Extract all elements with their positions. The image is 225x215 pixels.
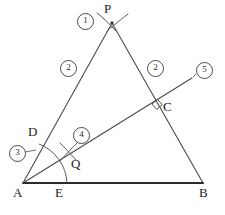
step-badge-1: 1 — [77, 13, 94, 30]
compass-cross-at-P — [97, 13, 128, 31]
segment-ray-A-through-C — [23, 78, 192, 183]
point-label-A: A — [13, 186, 22, 199]
step-badge-5: 5 — [196, 62, 213, 79]
leader-line-step5 — [193, 74, 196, 77]
geometry-svg-root — [0, 0, 225, 215]
geometry-diagram-canvas: A B C D E P Q 1 2 2 3 4 5 — [0, 0, 225, 215]
angle-arc-centered-at-A — [39, 144, 67, 183]
segment-side-AP — [23, 23, 112, 183]
step-badge-3: 3 — [9, 145, 26, 162]
segment-side-PB — [112, 23, 203, 183]
step-badge-4: 4 — [73, 127, 90, 144]
leader-line-step3 — [25, 150, 36, 152]
point-label-C: C — [163, 100, 172, 113]
point-label-Q: Q — [71, 157, 80, 170]
point-label-P: P — [104, 2, 111, 15]
point-label-D: D — [28, 125, 37, 138]
point-label-B: B — [199, 186, 208, 199]
point-label-E: E — [55, 186, 63, 199]
step-badge-2-right: 2 — [147, 60, 164, 77]
step-badge-2-left: 2 — [60, 60, 77, 77]
